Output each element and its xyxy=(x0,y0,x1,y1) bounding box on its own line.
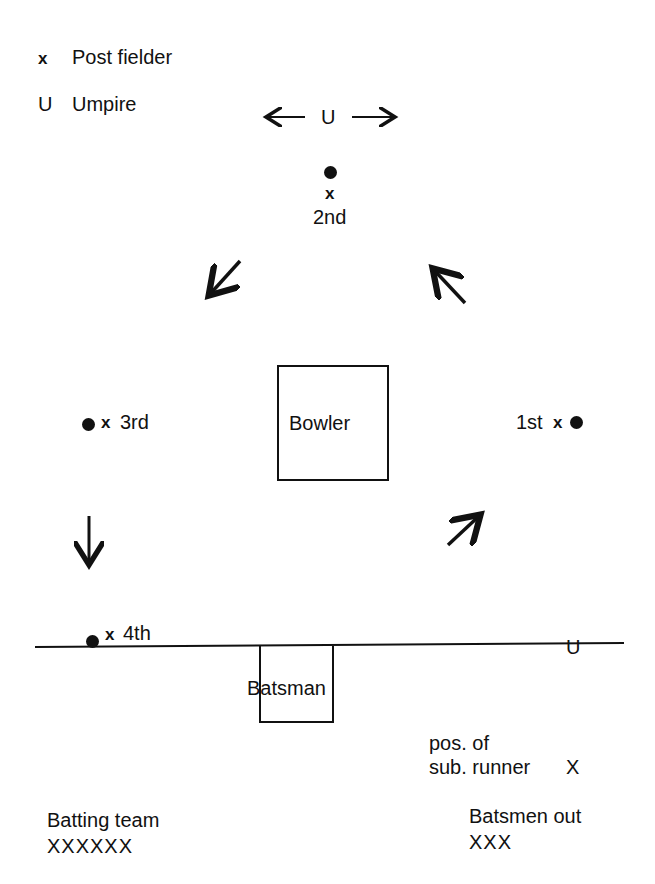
batting-team-players: XXXXXX xyxy=(47,835,133,857)
sub-runner-label-1: pos. of xyxy=(429,732,489,754)
batsmen-out-label: Batsmen out xyxy=(469,805,581,827)
batsman-label: Batsman xyxy=(247,677,326,699)
bowler-label: Bowler xyxy=(289,412,350,434)
post-3rd-fielder: x xyxy=(101,412,110,434)
top-umpire: U xyxy=(321,106,335,128)
fielder-legend-icon: x xyxy=(38,48,47,70)
bowler-box: Bowler xyxy=(277,365,389,481)
line-umpire: U xyxy=(566,636,580,658)
post-4th-dot xyxy=(86,635,99,648)
post-1st-label: 1st xyxy=(516,411,543,433)
post-4th-label: 4th xyxy=(123,622,151,644)
sub-runner-marker: X xyxy=(566,756,579,778)
arrow-up-right-icon xyxy=(448,517,478,545)
arrow-down-left-icon xyxy=(211,261,240,293)
post-1st-fielder: x xyxy=(553,412,562,434)
post-3rd-dot xyxy=(82,418,95,431)
batting-team-label: Batting team xyxy=(47,809,159,831)
umpire-legend-icon: U xyxy=(38,93,52,115)
fielder-legend-label: Post fielder xyxy=(72,46,172,68)
umpire-legend-label: Umpire xyxy=(72,93,136,115)
post-2nd-fielder: x xyxy=(325,183,334,205)
arrow-up-left-icon xyxy=(435,271,465,303)
sub-runner-label-2: sub. runner xyxy=(429,756,530,778)
post-1st-dot xyxy=(570,416,583,429)
batsmen-out-players: XXX xyxy=(469,831,512,853)
post-2nd-dot xyxy=(324,166,337,179)
post-4th-fielder: x xyxy=(105,624,114,646)
post-3rd-label: 3rd xyxy=(120,411,149,433)
post-2nd-label: 2nd xyxy=(313,206,346,228)
